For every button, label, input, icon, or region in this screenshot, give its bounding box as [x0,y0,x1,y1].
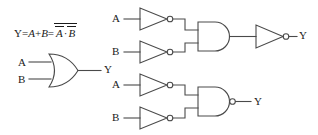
or-gate-body [49,54,78,87]
not-gate-b-bottom-body [140,107,167,129]
top-wire-a-to-and [173,19,198,30]
nand-gate-bottom-body [198,87,230,116]
circuit-schematic [0,0,318,135]
not-gate-output-top-body [256,25,283,48]
top-wire-b-to-and [173,43,198,52]
not-gate-a-bottom-body [140,74,167,96]
figure-canvas: Y=A+B=A·B A B Y A B Y A B Y [0,0,318,135]
nand-gate-bottom-bubble [230,99,236,105]
and-gate-top-body [198,22,230,51]
bottom-wire-a-to-nand [173,85,198,95]
bottom-wire-b-to-nand [173,108,198,118]
not-gate-a-top-body [140,8,167,30]
not-gate-b-top-body [140,41,167,63]
